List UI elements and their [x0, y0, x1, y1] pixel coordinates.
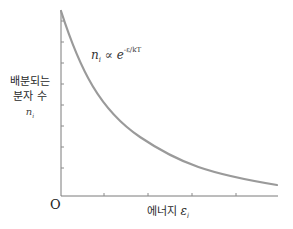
y-axis-label: 배분되는 분자 수 ni [4, 74, 56, 123]
formula-n: n [91, 48, 99, 62]
decay-curve [61, 11, 277, 185]
y-label-line2: 분자 수 [4, 89, 56, 104]
y-label-symbol: ni [4, 104, 56, 123]
origin-label: O [50, 197, 61, 212]
formula-proportional: ∝ [101, 48, 117, 62]
x-axis-label: 에너지 εi [147, 202, 189, 220]
formula-exponent: -ε/kT [124, 46, 141, 54]
y-label-line1: 배분되는 [4, 74, 56, 89]
x-label-text: 에너지 [147, 205, 181, 218]
formula-e: e [117, 48, 124, 62]
formula-annotation: ni ∝ e-ε/kT [91, 46, 141, 64]
x-label-sub: i [187, 212, 189, 220]
